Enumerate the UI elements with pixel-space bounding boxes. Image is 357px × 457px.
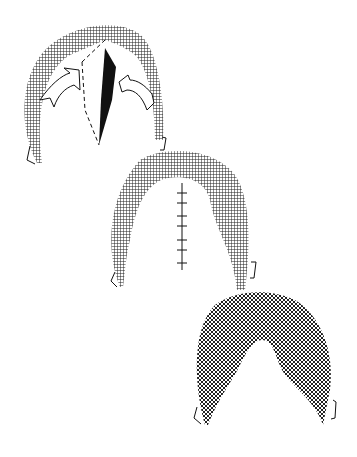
suture-line — [177, 183, 187, 270]
right-ear-2 — [250, 262, 256, 278]
stage-2 — [111, 151, 256, 290]
crosshatched-horseshoe — [197, 292, 331, 425]
right-ear-3 — [331, 400, 336, 419]
illustration-canvas — [0, 0, 357, 457]
left-ear-3 — [194, 407, 201, 424]
black-wedge-defect — [99, 48, 116, 145]
stage-3 — [194, 292, 336, 425]
stage-1 — [24, 25, 166, 164]
hatched-crescent-2 — [111, 151, 248, 290]
